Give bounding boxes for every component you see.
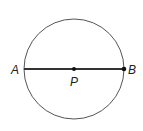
- label-p: P: [70, 75, 78, 89]
- label-b: B: [128, 63, 136, 77]
- label-a: A: [10, 63, 19, 77]
- point-p: [72, 67, 76, 71]
- circle-diagram: A B P: [0, 0, 143, 131]
- point-b: [122, 67, 127, 72]
